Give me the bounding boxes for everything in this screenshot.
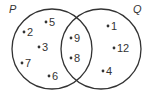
element-5: 5 — [49, 16, 55, 28]
region-only-q: 1 12 4 — [102, 20, 130, 77]
element-2: 2 — [27, 26, 33, 38]
element-4: 4 — [106, 65, 112, 77]
element-3: 3 — [42, 41, 48, 53]
element-7: 7 — [25, 57, 31, 69]
element-6: 6 — [52, 70, 58, 82]
element-8: 8 — [74, 52, 80, 64]
set-p-label: P — [9, 3, 17, 15]
region-p-and-q: 9 8 — [70, 32, 81, 64]
set-q-label: Q — [133, 3, 142, 15]
element-9: 9 — [74, 32, 80, 44]
region-only-p: 5 2 3 7 6 — [21, 16, 59, 82]
element-1: 1 — [111, 20, 117, 32]
venn-diagram: P Q 5 2 3 7 6 9 8 1 12 4 — [0, 0, 148, 95]
element-12: 12 — [117, 42, 129, 54]
